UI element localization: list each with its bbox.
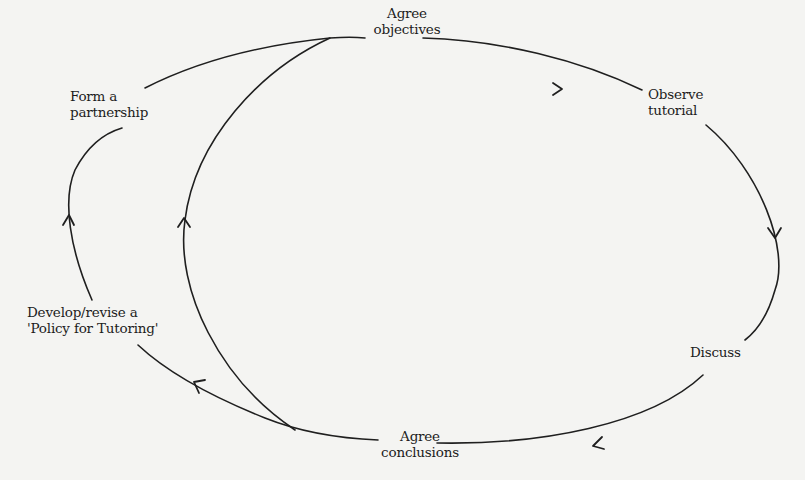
node-develop-policy: Develop/revise a 'Policy for Tutoring'	[27, 304, 158, 336]
edge-policy-to-partnership	[69, 128, 122, 300]
node-agree-objectives: Agree objectives	[363, 5, 451, 37]
arrowhead-right-icon	[553, 83, 562, 95]
node-label-line: 'Policy for Tutoring'	[27, 320, 158, 336]
arrowhead-up-outer-icon	[63, 215, 74, 225]
arrowhead-left-icon	[593, 437, 604, 449]
node-agree-conclusions: Agree conclusions	[373, 428, 467, 460]
edge-conclusions-to-policy	[138, 345, 378, 440]
node-label-line: Discuss	[690, 344, 741, 360]
node-label-line: Agree	[363, 5, 451, 21]
node-discuss: Discuss	[690, 344, 741, 360]
node-observe-tutorial: Observe tutorial	[648, 86, 703, 118]
edge-observe-to-discuss	[706, 125, 779, 340]
node-label-line: conclusions	[373, 444, 467, 460]
node-label-line: Observe	[648, 86, 703, 102]
node-label-line: Agree	[373, 428, 467, 444]
edge-inner-loop	[184, 38, 330, 430]
edge-objectives-to-observe	[423, 38, 642, 90]
arrowhead-up-left-icon	[194, 380, 205, 393]
node-label-line: tutorial	[648, 102, 703, 118]
node-label-line: Form a	[70, 88, 148, 104]
node-label-line: partnership	[70, 104, 148, 120]
edge-partnership-to-objectives	[145, 37, 365, 88]
node-label-line: Develop/revise a	[27, 304, 158, 320]
cycle-diagram	[0, 0, 805, 480]
node-form-partnership: Form a partnership	[70, 88, 148, 120]
edge-discuss-to-conclusions	[437, 375, 703, 443]
node-label-line: objectives	[363, 21, 451, 37]
